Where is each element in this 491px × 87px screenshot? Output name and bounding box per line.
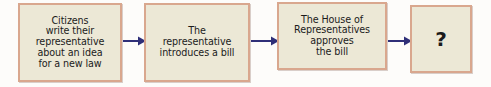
flow-step-3-line-4: the bill: [316, 46, 348, 57]
right-arrow-icon-1: [123, 33, 146, 47]
flow-step-1-line-3: representative: [36, 36, 105, 47]
flow-step-box-1: Citizens write their representative abou…: [18, 3, 122, 82]
flow-step-3-line-3: approves: [310, 35, 353, 46]
flow-step-1-line-4: about an idea: [38, 47, 103, 58]
flow-step-2-line-3: introduces a bill: [160, 47, 235, 58]
process-flow-diagram: Citizens write their representative abou…: [0, 0, 491, 87]
flow-step-3-line-2: Representatives: [294, 24, 370, 35]
flow-step-1-line-1: Citizens: [51, 15, 88, 26]
flow-step-1-line-2: write their: [46, 25, 94, 36]
flow-step-box-3: The House of Representatives approves th…: [277, 2, 387, 70]
flow-step-3-label: The House of Representatives approves th…: [292, 15, 372, 58]
flow-step-2-label: The representative introduces a bill: [158, 26, 237, 58]
flow-step-1-line-5: for a new law: [38, 58, 101, 69]
flow-step-box-2: The representative introduces a bill: [144, 3, 250, 82]
right-arrow-icon-2: [251, 33, 279, 47]
flow-step-2-line-1: The: [188, 25, 206, 36]
flow-step-3-line-1: The House of: [301, 14, 363, 25]
flow-step-1-label: Citizens write their representative abou…: [34, 16, 107, 70]
right-arrow-icon-3: [388, 33, 412, 47]
flow-step-4-question-mark: ?: [433, 29, 449, 49]
flow-step-2-line-2: representative: [163, 36, 232, 47]
flow-step-box-4: ?: [410, 5, 472, 73]
